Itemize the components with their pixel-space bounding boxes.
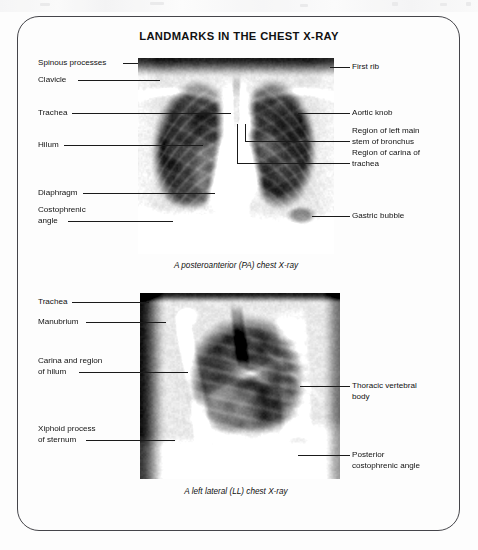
pa-chest-xray-image <box>138 58 334 254</box>
pa-label-gastric-bubble: Gastric bubble <box>352 211 404 222</box>
ll-label-trachea: Trachea <box>38 297 67 308</box>
pa-leader-left-main-bronchus <box>245 141 350 142</box>
ll-label-xiphoid-process: Xiphoid process of sternum <box>38 424 96 445</box>
pa-leader-first-rib <box>330 67 350 68</box>
ll-label-thoracic-vertebral-body: Thoracic vertebral body <box>352 381 417 402</box>
pa-leader-diaphragm <box>83 193 215 194</box>
ll-label-carina-hilum: Carina and region of hilum <box>38 356 102 377</box>
pa-label-carina-trachea: Region of carina of trachea <box>352 148 420 169</box>
pa-label-left-main-bronchus: Region of left main stem of bronchus <box>352 126 420 147</box>
pa-label-diaphragm: Diaphragm <box>38 188 78 199</box>
pa-label-trachea: Trachea <box>38 108 67 119</box>
pa-leader-trachea <box>72 113 231 114</box>
ll-leader-thoracic-vertebral-body <box>300 386 350 387</box>
pa-label-clavicle: Clavicle <box>38 75 66 86</box>
ll-leader-manubrium <box>86 322 166 323</box>
figure-page: LANDMARKS IN THE CHEST X-RAY Spinous pro… <box>0 0 478 550</box>
ll-leader-xiphoid-process <box>86 440 175 441</box>
ll-leader-carina-hilum <box>79 372 188 373</box>
ll-label-posterior-costophrenic-angle: Posterior costophrenic angle <box>352 450 420 471</box>
ll-leader-trachea <box>72 302 149 303</box>
pa-label-spinous-processes: Spinous processes <box>38 58 106 69</box>
pa-leader-hilum <box>64 145 203 146</box>
pa-label-aortic-knob: Aortic knob <box>352 108 393 119</box>
ll-label-manubrium: Manubrium <box>38 317 79 328</box>
pa-caption: A posteroanterior (PA) chest X-ray <box>108 261 364 270</box>
pa-label-costophrenic-angle: Costophrenic angle <box>38 205 86 226</box>
scan-noise-band <box>0 0 478 12</box>
ll-leader-posterior-costophrenic-angle <box>298 455 350 456</box>
pa-label-hilum: Hilum <box>38 140 59 151</box>
pa-leader-carina-trachea <box>237 163 350 164</box>
pa-pointer-left-main-bronchus <box>245 124 246 141</box>
pa-pointer-carina-trachea <box>237 124 238 163</box>
pa-leader-costophrenic-angle <box>68 221 173 222</box>
page-title: LANDMARKS IN THE CHEST X-RAY <box>0 30 478 42</box>
pa-leader-clavicle <box>78 80 160 81</box>
lateral-caption: A left lateral (LL) chest X-ray <box>108 487 364 496</box>
pa-leader-aortic-knob <box>298 113 350 114</box>
pa-leader-gastric-bubble <box>312 216 350 217</box>
pa-leader-spinous-processes <box>123 63 138 64</box>
pa-label-first-rib: First rib <box>352 62 379 73</box>
